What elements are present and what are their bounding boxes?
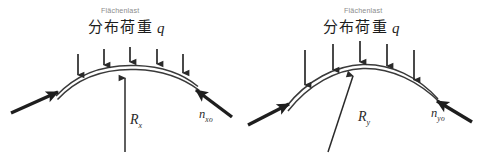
radius-label-x: Rx [130,113,142,130]
thrust-arrow-left-y [248,104,289,125]
shell-outer-surface-y [286,64,438,107]
diagram-panel-y-direction: Flächenlast 分布荷重 q Ry nyo [243,0,486,156]
diagram-panel-x-direction: Flächenlast 分布荷重 q Rx nxo [0,0,243,156]
radius-subscript-x: x [139,121,143,130]
radius-label-y: Ry [358,110,370,127]
radius-letter-y: R [358,109,367,124]
radius-letter-x: R [130,112,139,127]
japanese-load-label-y: 分布荷重 [323,20,388,35]
german-load-label-y: Flächenlast [344,7,382,14]
german-load-label-x: Flächenlast [101,7,139,14]
japanese-load-label-x: 分布荷重 [88,20,153,35]
thrust-subscript-x: xo [205,115,213,124]
load-symbol-q-y: q [392,21,400,36]
load-symbol-q-x: q [157,21,165,36]
radius-arrow-y [328,76,353,152]
thrust-label-x: nxo [199,108,213,123]
shell-inner-surface-y [288,68,441,111]
shell-load-diagram-figure: Flächenlast 分布荷重 q Rx nxo [0,0,486,156]
thrust-subscript-y: yo [437,114,445,123]
thrust-label-y: nyo [431,107,445,122]
radius-subscript-y: y [367,118,371,127]
thrust-arrow-left-x [11,92,58,113]
